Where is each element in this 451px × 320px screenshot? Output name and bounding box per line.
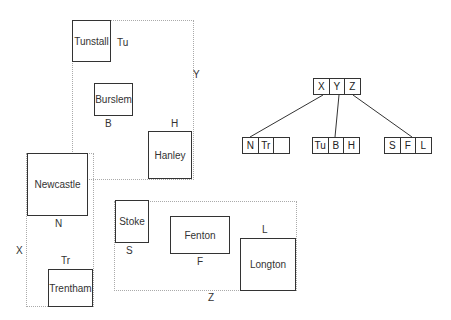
tree-leaf-y: Tu B H [312, 137, 360, 154]
tree-cell: B [328, 137, 345, 154]
tree-cell: X [313, 78, 330, 95]
tree-edges [0, 0, 451, 320]
tree-leaf-x: N Tr [242, 137, 290, 154]
tree-cell: Tr [258, 137, 275, 154]
tree-root-node: X Y Z [313, 78, 361, 95]
tree-cell: Z [344, 78, 361, 95]
tree-cell: L [415, 137, 432, 154]
tree-cell: Tu [312, 137, 329, 154]
tree-cell: F [400, 137, 417, 154]
tree-cell: H [343, 137, 360, 154]
tree-cell: N [242, 137, 259, 154]
tree-leaf-z: S F L [384, 137, 432, 154]
tree-cell: S [384, 137, 401, 154]
tree-cell: Y [329, 78, 346, 95]
tree-cell [273, 137, 290, 154]
